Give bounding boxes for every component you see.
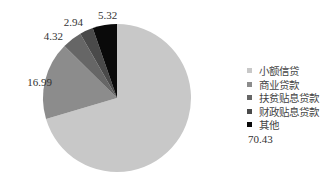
- legend-item-other: 其他: [247, 118, 319, 132]
- pie-data-label: 2.94: [64, 16, 84, 28]
- pie-data-label: 4.32: [44, 30, 63, 42]
- legend: 小额信贷 商业贷款 扶贫贴息贷款 财政贴息贷款 其他: [247, 64, 319, 132]
- legend-swatch: [247, 68, 252, 73]
- pie-slices: [43, 24, 191, 172]
- pie-data-label: 5.32: [98, 9, 117, 21]
- legend-item-fiscal-subsidized-loan: 财政贴息贷款: [247, 105, 319, 119]
- legend-item-commercial-loan: 商业贷款: [247, 78, 319, 92]
- legend-swatch: [247, 109, 252, 114]
- legend-swatch: [247, 122, 252, 127]
- pie-data-label: 16.99: [27, 76, 52, 88]
- pie-data-label: 70.43: [248, 133, 273, 145]
- legend-item-poverty-subsidized-loan: 扶贫贴息贷款: [247, 91, 319, 105]
- legend-label: 其他: [259, 117, 279, 132]
- legend-swatch: [247, 95, 252, 100]
- legend-item-small-credit: 小额信贷: [247, 64, 319, 78]
- legend-swatch: [247, 82, 252, 87]
